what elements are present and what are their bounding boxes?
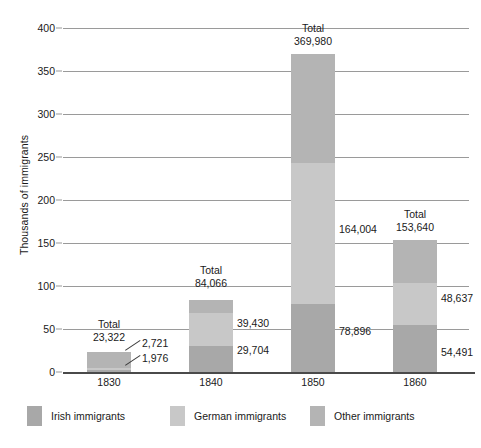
bar-1860 xyxy=(393,240,437,372)
value-label-german-1860: 48,637 xyxy=(441,292,473,305)
value-label-irish-1860: 54,491 xyxy=(441,346,473,359)
legend-swatch-icon xyxy=(310,406,325,426)
bar-segment-german-1840 xyxy=(189,313,233,347)
gridline xyxy=(63,157,469,158)
bar-1850 xyxy=(291,54,335,372)
y-axis-title: Thousands of immigrants xyxy=(18,0,30,110)
y-axis-tick-label: 150 xyxy=(37,237,55,249)
y-axis-tick-mark xyxy=(56,329,62,330)
bar-segment-other-1860 xyxy=(393,240,437,283)
x-axis-tick-label-1860: 1860 xyxy=(403,376,426,388)
legend-label: Other immigrants xyxy=(334,410,415,422)
bar-1840 xyxy=(189,300,233,372)
immigration-stacked-bar-chart: Thousands of immigrants 4003503002502001… xyxy=(0,0,481,448)
y-axis-tick-mark xyxy=(56,200,62,201)
y-axis-tick-label: 200 xyxy=(37,194,55,206)
gridline xyxy=(63,114,469,115)
y-axis-tick-label: 100 xyxy=(37,280,55,292)
gridline xyxy=(63,71,469,72)
value-label-german-1850: 164,004 xyxy=(339,223,377,236)
bar-segment-irish-1830 xyxy=(87,370,131,372)
legend-item-other: Other immigrants xyxy=(310,406,415,426)
legend-label: Irish immigrants xyxy=(51,410,125,422)
y-axis-tick-mark xyxy=(56,286,62,287)
x-axis-tick-label-1830: 1830 xyxy=(97,376,120,388)
total-label-1850: Total369,980 xyxy=(294,22,332,47)
x-axis-tick-label-1850: 1850 xyxy=(301,376,324,388)
x-axis-baseline xyxy=(63,372,475,374)
value-label-german-1830: 1,976 xyxy=(142,352,168,365)
value-label-irish-1840: 29,704 xyxy=(237,344,269,357)
total-value-1850: 369,980 xyxy=(294,35,332,47)
legend-swatch-icon xyxy=(170,406,185,426)
total-caption-1830: Total xyxy=(98,318,120,330)
total-label-1840: Total84,066 xyxy=(195,264,227,289)
total-caption-1860: Total xyxy=(404,208,426,220)
total-value-1830: 23,322 xyxy=(93,331,125,343)
value-label-german-1840: 39,430 xyxy=(237,317,269,330)
bar-segment-other-1850 xyxy=(291,54,335,163)
bar-segment-other-1840 xyxy=(189,300,233,313)
gridline xyxy=(63,200,469,201)
value-label-irish-1830: 2,721 xyxy=(142,337,168,350)
total-value-1860: 153,640 xyxy=(396,221,434,233)
gridline xyxy=(63,28,469,29)
total-caption-1850: Total xyxy=(302,22,324,34)
bar-segment-german-1860 xyxy=(393,283,437,325)
bar-segment-irish-1860 xyxy=(393,325,437,372)
x-axis-tick-label-1840: 1840 xyxy=(199,376,222,388)
y-axis-tick-label: 300 xyxy=(37,108,55,120)
total-value-1840: 84,066 xyxy=(195,277,227,289)
value-label-irish-1850: 78,896 xyxy=(339,325,371,338)
y-axis-tick-label: 50 xyxy=(43,323,55,335)
y-axis-tick-mark xyxy=(56,114,62,115)
y-axis-tick-label: 350 xyxy=(37,65,55,77)
y-axis-tick-mark xyxy=(56,157,62,158)
y-axis-tick-mark xyxy=(56,372,62,373)
legend-item-irish: Irish immigrants xyxy=(27,406,125,426)
y-axis-title-text: Thousands of immigrants xyxy=(18,110,30,280)
legend-swatch-icon xyxy=(27,406,42,426)
y-axis-tick-label: 400 xyxy=(37,22,55,34)
y-axis-tick-label: 250 xyxy=(37,151,55,163)
bar-segment-irish-1840 xyxy=(189,346,233,372)
chart-legend: Irish immigrantsGerman immigrantsOther i… xyxy=(0,404,481,434)
total-label-1860: Total153,640 xyxy=(396,208,434,233)
legend-item-german: German immigrants xyxy=(170,406,286,426)
legend-label: German immigrants xyxy=(194,410,286,422)
y-axis-tick-label: 0 xyxy=(49,366,55,378)
y-axis-tick-mark xyxy=(56,71,62,72)
y-axis-tick-mark xyxy=(56,243,62,244)
y-axis-tick-mark xyxy=(56,28,62,29)
bar-segment-irish-1850 xyxy=(291,304,335,372)
total-caption-1840: Total xyxy=(200,264,222,276)
bar-segment-german-1850 xyxy=(291,163,335,304)
total-label-1830: Total23,322 xyxy=(93,318,125,343)
bar-1830 xyxy=(87,352,131,372)
